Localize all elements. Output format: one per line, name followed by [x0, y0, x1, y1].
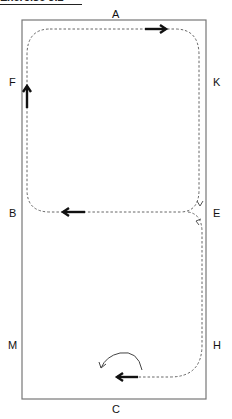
letter-e: E	[213, 208, 220, 219]
arena-border	[22, 20, 206, 399]
letter-f: F	[9, 77, 16, 88]
turn-arrow-icon	[99, 353, 142, 370]
letter-m: M	[8, 340, 17, 351]
arena-diagram	[0, 0, 232, 419]
letter-k: K	[213, 77, 220, 88]
arrow-up-icon	[23, 86, 31, 108]
letter-h: H	[213, 340, 221, 351]
chevron-turn-icon	[196, 219, 201, 225]
arrow-left-icon	[63, 208, 85, 216]
letter-a: A	[112, 9, 119, 20]
arrow-left-icon	[117, 373, 138, 381]
letter-c: C	[112, 404, 120, 415]
upper-loop-path	[27, 29, 199, 212]
lower-branch-path	[138, 212, 202, 377]
letter-b: B	[9, 208, 16, 219]
arrow-right-icon	[145, 25, 166, 33]
chevron-down-icon	[197, 201, 203, 206]
